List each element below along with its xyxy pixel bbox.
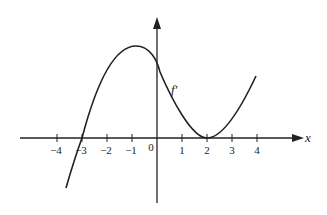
tick-label: −1 <box>125 144 137 156</box>
tick-label: 2 <box>204 144 210 156</box>
x-tick-labels: −4 −3 −2 −1 0 1 2 3 4 <box>50 141 260 156</box>
y-axis-arrow-icon <box>153 17 161 29</box>
f-prime-curve <box>66 46 256 188</box>
tick-label: 3 <box>229 144 235 156</box>
tick-label: −4 <box>50 144 62 156</box>
curve-label: f′ <box>171 82 178 97</box>
tick-label: 1 <box>179 144 185 156</box>
tick-label: −2 <box>100 144 112 156</box>
x-axis-label: x <box>304 130 311 145</box>
tick-label: 4 <box>254 144 260 156</box>
x-axis-arrow-icon <box>292 134 304 142</box>
chart: −4 −3 −2 −1 0 1 2 3 4 f′ x <box>0 0 327 215</box>
tick-label: 0 <box>148 141 154 153</box>
